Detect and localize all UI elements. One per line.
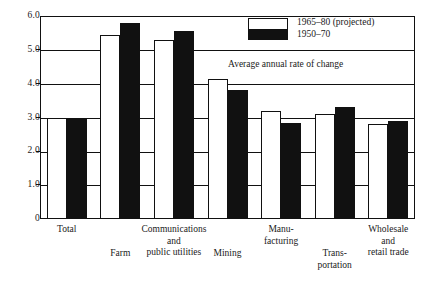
bar-series-1 [47, 118, 67, 220]
chart-annotation: Average annual rate of change [228, 59, 343, 70]
legend-swatch-series-1 [249, 19, 287, 29]
bar-series-2 [388, 121, 408, 219]
bar-series-2 [67, 118, 87, 220]
y-axis-tick-label: 1.0 [6, 180, 40, 190]
bar-series-2 [174, 31, 194, 219]
y-axis-tick-label: 2.0 [6, 146, 40, 156]
bar-series-1 [100, 35, 120, 219]
x-axis-label: Mining [173, 248, 283, 260]
bar-series-1 [208, 79, 228, 219]
bar-series-2 [281, 123, 301, 219]
bar-series-1 [261, 111, 281, 219]
y-axis-tick-label: 4.0 [6, 79, 40, 89]
y-axis: 01.02.03.04.05.06.0 [0, 0, 40, 294]
bar-chart: 01.02.03.04.05.06.0 1965–80 (projected) … [0, 0, 431, 294]
y-axis-tick-label: 0 [6, 214, 40, 224]
bar-series-1 [368, 124, 388, 219]
legend-swatch-series-2 [249, 29, 287, 39]
bars-layer [40, 16, 415, 219]
y-axis-tick-label: 6.0 [6, 11, 40, 21]
bar-series-2 [228, 90, 248, 219]
x-axis-label: Wholesale and retail trade [333, 224, 431, 259]
y-axis-tick-label: 5.0 [6, 45, 40, 55]
legend: 1965–80 (projected) 1950–70 [248, 17, 374, 40]
legend-labels: 1965–80 (projected) 1950–70 [297, 17, 374, 40]
legend-label-series-2: 1950–70 [297, 29, 374, 41]
bar-series-2 [335, 107, 355, 219]
x-axis-label: Total [12, 224, 122, 236]
bar-series-1 [154, 40, 174, 219]
legend-label-series-1: 1965–80 (projected) [297, 17, 374, 29]
bar-series-1 [315, 114, 335, 219]
bar-series-2 [120, 23, 140, 219]
legend-swatch [248, 18, 288, 40]
y-axis-tick-label: 3.0 [6, 113, 40, 123]
x-axis-label: Manu- facturing [226, 224, 336, 247]
